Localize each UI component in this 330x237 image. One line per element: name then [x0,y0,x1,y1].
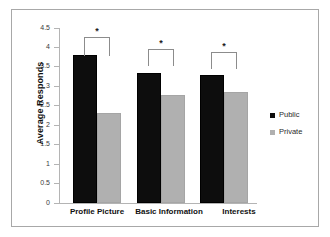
significance-star-profile-picture: * [84,27,110,36]
figure-container: 4.5 4 3.5 3 2.5 2 1.5 1 0.5 0 Average Re… [0,0,330,237]
bar-private-interests [224,92,248,203]
chart-frame: 4.5 4 3.5 3 2.5 2 1.5 1 0.5 0 Average Re… [11,9,319,227]
bar-public-interests [200,75,224,203]
bar-public-basic-information [137,73,161,203]
significance-star-basic-information: * [148,39,174,48]
x-axis-line [59,203,257,204]
chart-legend: Public Private [270,111,302,145]
bar-private-profile-picture [97,113,121,203]
x-axis-label-interests: Interests [206,207,272,216]
legend-item-private: Private [270,128,302,136]
legend-label-public: Public [279,111,299,119]
legend-swatch-private-icon [270,130,275,135]
significance-star-interests: * [211,42,237,51]
y-tick-label-0: 0 [10,199,50,207]
significance-bracket-basic-information [148,49,174,66]
x-axis-label-profile-picture: Profile Picture [60,207,134,216]
plot-area: * * * [60,28,256,203]
legend-swatch-public-icon [270,113,275,118]
bar-public-profile-picture [73,55,97,203]
bar-private-basic-information [161,95,185,203]
y-tick-label-0.5: 0.5 [10,179,50,187]
significance-bracket-interests [211,52,237,69]
legend-item-public: Public [270,111,302,119]
y-axis-title: Average Responds [35,28,45,178]
significance-bracket-profile-picture [84,37,110,56]
legend-label-private: Private [279,128,302,136]
x-axis-label-basic-information: Basic Information [126,207,212,216]
